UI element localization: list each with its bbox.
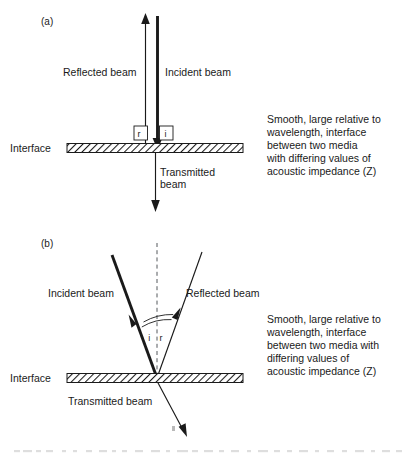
panel-a-note-line-1: Smooth, large relative to	[267, 113, 381, 125]
panel-a-angle-i-label: i	[165, 129, 167, 139]
panel-b-transmitted-beam-label: Transmitted beam	[68, 395, 152, 407]
panel-a-transmitted-beam-arrow	[151, 153, 160, 212]
arrowhead-down-transmitted-a	[151, 200, 160, 212]
figure-acoustic-reflection: (a) Reflected beam Incident beam r i	[0, 0, 413, 456]
panel-a-note-line-3: between two media	[267, 139, 358, 151]
panel-a-transmitted-beam-label-line1: Transmitted	[160, 166, 215, 178]
panel-b-angle-r-label: r	[160, 333, 163, 343]
panel-a-angle-i-marker: i	[160, 126, 174, 140]
panel-a-side-note: Smooth, large relative to wavelength, in…	[266, 113, 381, 177]
panel-b: (b) i r Incident beam	[10, 238, 381, 437]
panel-a-angle-r-marker: r	[134, 126, 148, 140]
panel-a-note-line-2: wavelength, interface	[266, 126, 366, 138]
panel-b-note-line-4: differing values of	[267, 352, 349, 364]
cropped-caption-sliver	[14, 426, 402, 452]
arrowhead-reflected-b	[172, 308, 181, 321]
arrowhead-up-reflected-a	[141, 13, 150, 24]
panel-a-incident-beam-label: Incident beam	[165, 66, 231, 78]
panel-a-transmitted-beam-label-line2: beam	[160, 178, 187, 190]
panel-a-label: (a)	[41, 16, 53, 27]
panel-b-interface-bar	[67, 374, 243, 383]
panel-b-note-line-1: Smooth, large relative to	[267, 313, 381, 325]
panel-b-interface-label: Interface	[10, 372, 51, 384]
panel-b-reflected-beam-label: Reflected beam	[186, 287, 260, 299]
panel-a-note-line-5: acoustic impedance (Z)	[267, 165, 376, 177]
arrowhead-transmitted-b	[179, 423, 187, 437]
panel-a-note-line-4: with differing values of	[266, 152, 371, 164]
figure-canvas: (a) Reflected beam Incident beam r i	[0, 0, 413, 456]
panel-b-label: (b)	[41, 238, 53, 249]
panel-b-incident-beam-arrow	[112, 255, 157, 378]
panel-b-note-line-3: between two media with	[267, 339, 379, 351]
panel-a-interface-bar	[67, 144, 243, 153]
panel-b-side-note: Smooth, large relative to wavelength, in…	[266, 313, 381, 377]
panel-a-interface-label: Interface	[10, 142, 51, 154]
panel-b-note-line-5: acoustic impedance (Z)	[267, 365, 376, 377]
panel-a-reflected-beam-label: Reflected beam	[63, 66, 137, 78]
panel-b-incident-beam-label: Incident beam	[48, 287, 114, 299]
panel-b-angle-i-label: i	[148, 333, 150, 343]
panel-a: (a) Reflected beam Incident beam r i	[10, 13, 381, 212]
panel-a-angle-r-label: r	[137, 129, 140, 139]
panel-b-note-line-2: wavelength, interface	[266, 326, 366, 338]
